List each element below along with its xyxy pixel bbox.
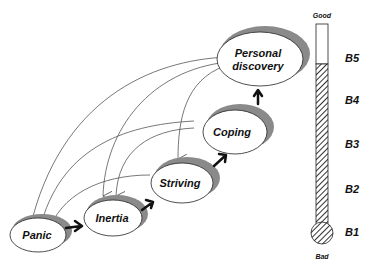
level-b3: B3 xyxy=(345,138,359,150)
stage-label-line1: Personal xyxy=(235,47,282,59)
level-b4: B4 xyxy=(345,94,359,106)
stage-label: Coping xyxy=(213,126,251,138)
scale-bottom-label: Bad xyxy=(315,253,329,260)
stage-inertia: Inertia xyxy=(84,195,148,236)
stage-label: Inertia xyxy=(95,212,128,224)
forward-arrow xyxy=(254,90,262,104)
level-b2: B2 xyxy=(345,183,359,195)
stage-label: Panic xyxy=(22,229,51,241)
forward-arrow xyxy=(214,154,226,166)
level-b1: B1 xyxy=(345,226,359,238)
level-b5: B5 xyxy=(345,52,360,64)
stage-panic: Panic xyxy=(10,214,72,252)
scale-top-label: Good xyxy=(313,12,332,19)
stage-personal-discovery: Personal discovery xyxy=(217,26,310,86)
stage-label-line2: discovery xyxy=(232,60,284,72)
diagram-canvas: Panic Inertia Striving Coping Personal d… xyxy=(0,0,371,270)
stage-label: Striving xyxy=(160,177,201,189)
stage-coping: Coping xyxy=(203,104,274,154)
stage-striving: Striving xyxy=(151,157,220,203)
thermometer-scale: Good Bad B5 B4 B3 B2 B1 xyxy=(311,12,360,260)
